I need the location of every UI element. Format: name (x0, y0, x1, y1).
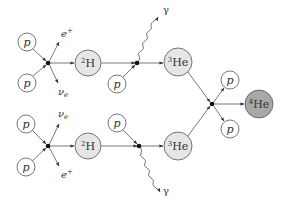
isotope-symbol: He (172, 56, 188, 69)
arrow-p-bot-3 (123, 130, 137, 144)
isotope-symbol: H (85, 57, 95, 70)
node-he4: 4He (245, 90, 273, 118)
node-p-top-3: p (108, 75, 126, 93)
node-h2-top: 2H (75, 50, 101, 76)
arrow-p-bot-1 (32, 130, 46, 144)
arrow-neutrino-bot (49, 124, 59, 145)
arrow-to-p-out-2 (213, 105, 224, 121)
isotope-symbol: H (85, 140, 95, 153)
arrow-positron-top (49, 42, 59, 62)
gamma-wave-top (138, 17, 158, 62)
vertex-bot-1 (46, 144, 51, 149)
vertex-top-1 (46, 61, 51, 66)
node-label: p (23, 36, 30, 49)
node-he3-top: 3He (164, 48, 192, 76)
label-positron-top: e+ (61, 27, 73, 39)
node-label: p (23, 77, 30, 90)
node-p-bot-2: p (17, 158, 35, 176)
node-label: p (113, 78, 120, 91)
node-p-bot-1: p (17, 115, 35, 133)
diagram-canvas: p p 2H p 3He p p 2H p 3He p p (0, 0, 282, 200)
node-p-bot-3: p (108, 114, 126, 132)
arrow-to-p-out-1 (213, 88, 224, 103)
vertex-final (210, 102, 215, 107)
label-neutrino-bot: νe (58, 108, 68, 121)
arrow-positron-bot (49, 147, 59, 166)
node-label: p (226, 74, 233, 87)
arrow-p-top-2 (33, 65, 46, 76)
top-branch (33, 17, 163, 83)
node-he3-bot: 3He (164, 132, 192, 160)
pp-chain-diagram: p p 2H p 3He p p 2H p 3He p p (0, 0, 282, 200)
gamma-wave-bot (140, 147, 160, 192)
label-gamma-top: γ (163, 4, 169, 15)
node-h2-bot: 2H (75, 133, 101, 159)
arrow-he3-bot-to-vertex (188, 106, 210, 136)
vertex-top-2 (135, 61, 140, 66)
arrow-he3-top-to-vertex (188, 72, 210, 102)
label-gamma-bot: γ (163, 185, 169, 196)
node-p-top-2: p (18, 74, 36, 92)
label-positron-bot: e+ (61, 168, 73, 180)
arrow-p-top-3 (123, 65, 135, 77)
node-label: p (22, 118, 29, 131)
node-label: p (113, 117, 120, 130)
node-p-out-2: p (221, 120, 239, 138)
node-p-top-1: p (18, 33, 36, 51)
node-p-out-1: p (221, 71, 239, 89)
node-label: p (22, 161, 29, 174)
node-label: p (226, 123, 233, 136)
bottom-branch (32, 124, 163, 192)
arrow-p-top-1 (33, 49, 46, 61)
vertex-bot-2 (137, 144, 142, 149)
isotope-symbol: He (172, 140, 188, 153)
arrow-p-bot-2 (32, 148, 46, 161)
arrow-neutrino-top (49, 64, 58, 83)
isotope-symbol: He (253, 98, 269, 111)
label-neutrino-top: νe (58, 86, 68, 99)
